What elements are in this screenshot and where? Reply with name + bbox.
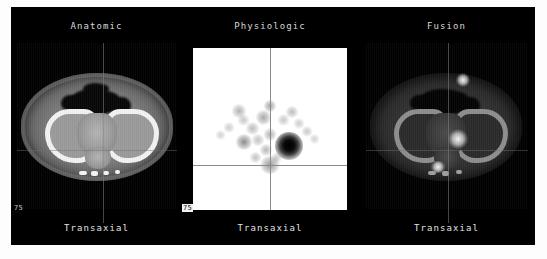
ct-marker (79, 171, 87, 175)
panel-title-fusion: Fusion (358, 21, 535, 31)
crosshair-vertical-anatomic[interactable] (103, 43, 104, 223)
crosshair-horizontal-physiologic[interactable] (193, 165, 347, 166)
orientation-label-fusion: Transaxial (358, 223, 535, 233)
ct-marker (91, 171, 98, 176)
pet-uptake-blob (309, 134, 320, 144)
fusion-uptake-focus (456, 73, 470, 87)
orientation-label-anatomic: Transaxial (11, 223, 182, 233)
ct-marker (115, 170, 120, 174)
pet-image-physiologic[interactable] (193, 48, 347, 210)
panel-anatomic[interactable]: Anatomic (11, 7, 182, 245)
ct-gas-pocket (83, 83, 109, 95)
image-viewport: Anatomic (11, 7, 535, 245)
slice-index-anatomic: 75 (14, 204, 23, 212)
crosshair-horizontal-anatomic[interactable] (17, 150, 177, 151)
pet-focal-hotspot (275, 132, 303, 160)
ct-image-anatomic[interactable] (17, 43, 177, 209)
panel-physiologic[interactable]: Physiologic (182, 7, 358, 245)
fusion-uptake-focus (448, 129, 468, 149)
crosshair-horizontal-fusion[interactable] (366, 150, 528, 151)
panel-fusion[interactable]: Fusion Trans (358, 7, 535, 245)
pet-uptake-blob (285, 106, 299, 118)
fusion-marker (456, 170, 462, 174)
panel-title-anatomic: Anatomic (11, 21, 182, 31)
pet-uptake-blob (215, 130, 226, 140)
pet-canvas (193, 48, 347, 210)
fusion-image[interactable] (366, 43, 528, 209)
orientation-label-physiologic: Transaxial (182, 223, 358, 233)
fusion-marker (428, 171, 436, 175)
panel-title-physiologic: Physiologic (182, 21, 358, 31)
crosshair-vertical-physiologic[interactable] (270, 48, 271, 210)
slice-index-physiologic: 75 (182, 204, 193, 212)
crosshair-vertical-fusion[interactable] (448, 43, 449, 223)
pet-uptake-blob (235, 134, 253, 150)
pet-ct-viewer: Anatomic (0, 0, 547, 259)
